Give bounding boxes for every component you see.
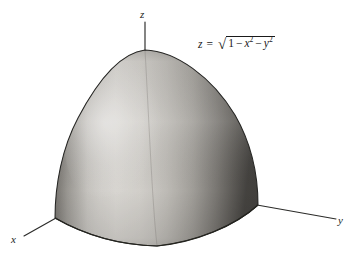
equation-relation: = — [206, 38, 213, 50]
hemisphere-surface — [40, 40, 280, 255]
radicand-operator-2: − — [255, 37, 262, 49]
radicand-term-3-exponent: 2 — [269, 35, 273, 44]
radicand-term-1: 1 — [228, 37, 234, 49]
radical-expression: √1−x2−y2 — [218, 36, 275, 51]
radicand-term-2-exponent: 2 — [250, 35, 254, 44]
figure-canvas: z x y z=√1−x2−y2 — [0, 0, 361, 260]
radicand-operator-1: − — [236, 37, 243, 49]
surface-plot-svg — [0, 0, 361, 260]
equation-annotation: z=√1−x2−y2 — [198, 36, 275, 51]
x-axis-visible-segment — [24, 218, 56, 236]
y-axis-label: y — [338, 215, 343, 226]
surface-grain-texture — [40, 40, 280, 255]
x-axis-label: x — [11, 234, 16, 245]
z-axis-label: z — [140, 9, 144, 20]
equation-lhs: z — [198, 38, 202, 50]
radicand: 1−x2−y2 — [226, 36, 274, 50]
y-axis-visible-segment — [257, 205, 336, 219]
radical-sign-icon: √ — [218, 36, 226, 52]
